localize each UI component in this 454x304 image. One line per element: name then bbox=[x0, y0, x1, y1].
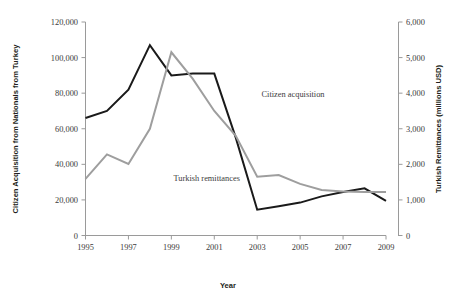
y-axis-left-tick-label: 100,000 bbox=[51, 54, 78, 63]
x-axis-title: Year bbox=[220, 281, 236, 290]
x-axis-tick-label: 2009 bbox=[378, 243, 395, 252]
y-axis-right-tick-label: 2,000 bbox=[406, 160, 425, 169]
y-axis-left-tick-label: 120,000 bbox=[51, 18, 78, 27]
x-axis-tick-label: 2003 bbox=[249, 243, 266, 252]
x-axis-tick-label: 1995 bbox=[77, 243, 94, 252]
y-axis-right-tick-label: 1,000 bbox=[406, 196, 425, 205]
chart-container: 020,00040,00060,00080,000100,000120,000 … bbox=[0, 0, 454, 304]
dual-axis-line-chart: 020,00040,00060,00080,000100,000120,000 … bbox=[0, 0, 454, 304]
series-label-citizen-acquisition: Citizen acquisition bbox=[262, 90, 326, 99]
chart-background bbox=[0, 0, 454, 304]
x-axis-tick-label: 1999 bbox=[163, 243, 180, 252]
x-axis-tick-label: 1997 bbox=[120, 243, 137, 252]
y-axis-right-title: Turkish Remittances (millions USD) bbox=[434, 64, 443, 193]
y-axis-left-tick-label: 80,000 bbox=[55, 89, 78, 98]
y-axis-left-title: Citizen Acquisition from Nationals from … bbox=[11, 44, 20, 214]
series-label-turkish-remittances: Turkish remittances bbox=[174, 174, 240, 183]
y-axis-left-tick-label: 0 bbox=[74, 232, 78, 241]
y-axis-right-tick-label: 4,000 bbox=[406, 89, 425, 98]
y-axis-left-tick-label: 60,000 bbox=[55, 125, 78, 134]
y-axis-right-tick-label: 3,000 bbox=[406, 125, 425, 134]
y-axis-left-tick-label: 40,000 bbox=[55, 160, 78, 169]
y-axis-left-tick-label: 20,000 bbox=[55, 196, 78, 205]
y-axis-right-tick-label: 0 bbox=[406, 232, 410, 241]
x-axis-tick-label: 2007 bbox=[335, 243, 352, 252]
x-axis-tick-label: 2005 bbox=[292, 243, 309, 252]
y-axis-right-tick-label: 5,000 bbox=[406, 54, 425, 63]
x-axis-tick-label: 2001 bbox=[206, 243, 223, 252]
y-axis-right-tick-label: 6,000 bbox=[406, 18, 425, 27]
